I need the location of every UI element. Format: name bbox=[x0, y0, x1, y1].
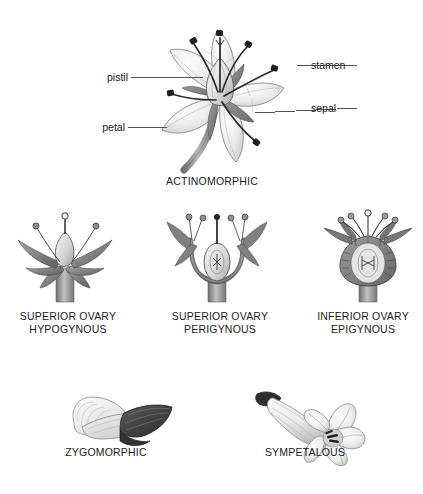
caption-hypogynous: SUPERIOR OVARY HYPOGYNOUS bbox=[3, 310, 133, 336]
diagram-canvas: pistil petal stamen sepal ACTINOMORPHIC bbox=[0, 0, 423, 494]
epigynous-drawing bbox=[318, 208, 418, 305]
caption-actinomorphic: ACTINOMORPHIC bbox=[132, 175, 292, 188]
caption-epigynous-line2: EPIGYNOUS bbox=[303, 323, 423, 336]
caption-hypogynous-line1: SUPERIOR OVARY bbox=[3, 310, 133, 323]
sympetalous-throat bbox=[323, 429, 343, 447]
caption-hypogynous-line2: HYPOGYNOUS bbox=[3, 323, 133, 336]
hypogynous-figure bbox=[12, 210, 120, 305]
caption-perigynous: SUPERIOR OVARY PERIGYNOUS bbox=[155, 310, 285, 336]
label-pistil: pistil bbox=[40, 71, 128, 83]
perigynous-drawing bbox=[163, 210, 271, 305]
hypogynous-stigma bbox=[62, 213, 68, 219]
hypogynous-drawing bbox=[12, 210, 120, 305]
hypogynous-ovary bbox=[55, 232, 74, 267]
epigynous-stigma bbox=[365, 210, 371, 216]
perigynous-figure bbox=[163, 210, 271, 305]
caption-sympetalous: SYMPETALOUS bbox=[245, 446, 365, 459]
caption-epigynous: INFERIOR OVARY EPIGYNOUS bbox=[303, 310, 423, 336]
caption-zygomorphic: ZYGOMORPHIC bbox=[46, 446, 166, 459]
epigynous-figure bbox=[318, 208, 418, 305]
label-sepal: sepal bbox=[311, 102, 336, 114]
caption-perigynous-line1: SUPERIOR OVARY bbox=[155, 310, 285, 323]
caption-epigynous-line1: INFERIOR OVARY bbox=[303, 310, 423, 323]
label-stamen: stamen bbox=[311, 59, 345, 71]
actinomorphic-leader-lines bbox=[0, 0, 423, 200]
zygomorphic-keel-petal bbox=[120, 405, 172, 437]
label-petal: petal bbox=[40, 121, 125, 133]
caption-perigynous-line2: PERIGYNOUS bbox=[155, 323, 285, 336]
leader-sepal bbox=[255, 108, 357, 113]
perigynous-stigma bbox=[214, 214, 220, 220]
